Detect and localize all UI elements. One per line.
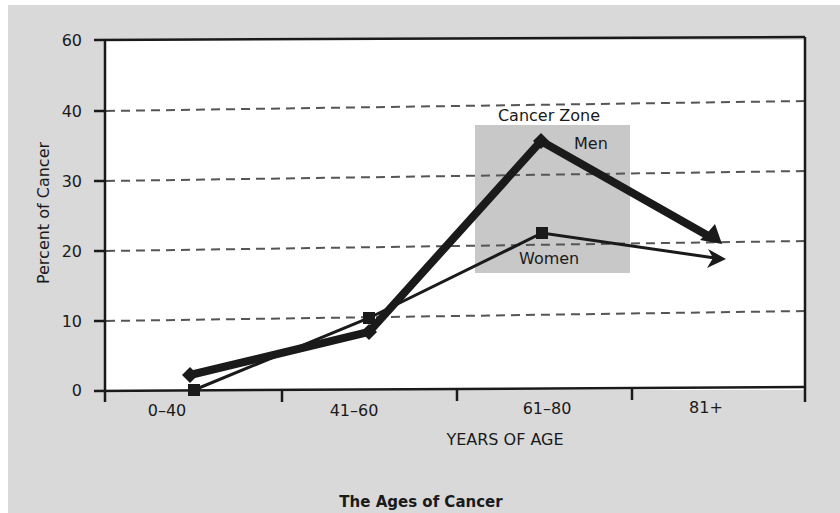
x-tick-labels: 0–40 41–60 61–80 81+ <box>148 398 723 420</box>
y-axis-title: Percent of Cancer <box>34 142 53 285</box>
x-axis-title: YEARS OF AGE <box>445 430 563 449</box>
square-marker-icon <box>536 227 548 239</box>
x-tick-label: 41–60 <box>330 401 379 420</box>
men-label: Men <box>574 134 608 153</box>
y-tick-label: 10 <box>62 312 82 331</box>
women-label: Women <box>519 249 579 268</box>
y-tick-label: 20 <box>62 242 82 261</box>
x-tick-label: 0–40 <box>148 401 187 420</box>
square-marker-icon <box>188 384 200 396</box>
chart: 60 40 30 20 10 0 0–40 41–60 61–80 81+ YE… <box>0 0 840 513</box>
chart-caption: The Ages of Cancer <box>339 493 503 511</box>
y-tick-label: 40 <box>62 102 82 121</box>
y-tick-labels: 60 40 30 20 10 0 <box>62 31 82 400</box>
x-tick-label: 61–80 <box>523 399 572 418</box>
cancer-zone-label: Cancer Zone <box>498 106 600 125</box>
plot-area <box>104 40 805 390</box>
y-tick-label: 0 <box>72 381 82 400</box>
x-tick-label: 81+ <box>689 398 723 417</box>
y-tick-label: 60 <box>62 31 82 50</box>
y-ticks <box>94 111 105 321</box>
y-tick-label: 30 <box>62 172 82 191</box>
